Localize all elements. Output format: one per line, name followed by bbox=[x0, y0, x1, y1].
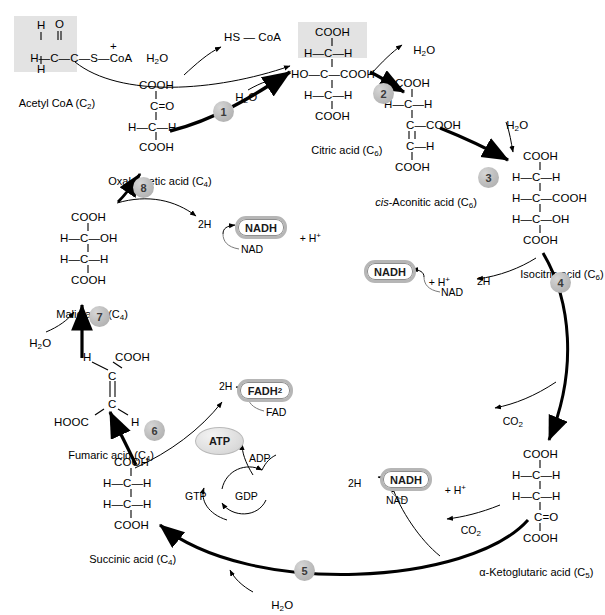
malic-r2: H—C—OH bbox=[60, 233, 117, 245]
ketoglutaric-r4: C=O bbox=[534, 512, 558, 524]
gdp-label: GDP bbox=[235, 490, 258, 502]
step-circle-5[interactable]: 5 bbox=[294, 560, 315, 581]
arrow-step-8-2h bbox=[117, 199, 196, 216]
fumaric-h-top: H bbox=[83, 352, 91, 364]
succinic-r2: H—C—H bbox=[103, 478, 151, 490]
acetyl-coa-name-text: Acetyl CoA (C bbox=[19, 97, 87, 109]
krebs-cycle-diagram: H O H—C—C—S—CoA H + H2O Acetyl CoA (C2) … bbox=[0, 0, 605, 615]
two-h-step-5: 2H bbox=[348, 477, 361, 489]
fumaric-cooh-top: COOH bbox=[115, 352, 150, 364]
fumaric-hooc: HOOC bbox=[54, 417, 89, 429]
fumaric-c2: C bbox=[108, 399, 116, 411]
nadh-badge-step-8: NADH bbox=[235, 216, 287, 239]
ketoglutaric-r5: COOH bbox=[523, 533, 558, 545]
step-circle-6[interactable]: 6 bbox=[144, 420, 165, 441]
h2o-label-step2: H2O bbox=[400, 33, 435, 69]
oxaloacetic-acid-name: Oxaloacetic acid (C4) bbox=[96, 163, 212, 201]
plus-h-step-5: + H+ bbox=[433, 471, 466, 508]
oxaloacetic-top-r2: C=O bbox=[150, 101, 174, 113]
fumaric-c1: C bbox=[108, 371, 116, 383]
fadh2-badge: FADH2 bbox=[237, 379, 293, 402]
citric-r5: COOH bbox=[315, 111, 350, 123]
malic-r4: COOH bbox=[71, 275, 106, 287]
nadh-badge-step-4: NADH bbox=[364, 260, 416, 283]
h2o-label-step5: H2O bbox=[258, 588, 293, 615]
ketoglutaric-acid-name: α-Ketoglutaric acid (C5) bbox=[467, 554, 593, 592]
arrow-h2o-step-5 bbox=[230, 570, 253, 592]
arrow-nadh-step-8 bbox=[223, 225, 235, 234]
acetyl-coa-o: O bbox=[55, 19, 64, 31]
isocitric-r5: COOH bbox=[523, 235, 558, 247]
plus-sign-acetyl: + bbox=[110, 41, 117, 53]
step-circle-8[interactable]: 8 bbox=[133, 177, 154, 198]
step-circle-7[interactable]: 7 bbox=[89, 306, 110, 327]
atp-badge: ATP bbox=[195, 427, 244, 455]
step-circle-3[interactable]: 3 bbox=[478, 167, 499, 188]
co2-label-step-5: CO2 bbox=[449, 512, 481, 550]
nad-label-step-4: NAD bbox=[441, 286, 463, 298]
arrow-gdp-to-gtp bbox=[222, 500, 266, 514]
two-h-step-8: 2H bbox=[198, 218, 211, 230]
acetyl-coa-name: Acetyl CoA (C2) bbox=[7, 85, 95, 123]
acetyl-coa-c1: C bbox=[50, 52, 58, 64]
arrow-gtp-from-cycle bbox=[203, 488, 227, 520]
step-circle-2[interactable]: 2 bbox=[373, 83, 394, 104]
two-h-step-6: 2H bbox=[219, 380, 232, 392]
ketoglutaric-r3: H—C—H bbox=[512, 491, 560, 503]
acetyl-coa-name-close: ) bbox=[92, 97, 96, 109]
oxaloacetic-top-r3: H—C—H bbox=[128, 122, 176, 134]
succinic-r3: H—C—H bbox=[103, 499, 151, 511]
ketoglutaric-r2: H—C—H bbox=[512, 470, 560, 482]
oxaloacetic-top-r1: COOH bbox=[139, 80, 174, 92]
h2o-label-step3: H2O bbox=[493, 108, 528, 144]
h2o-label-step7: H2O bbox=[16, 326, 51, 362]
step-circle-4[interactable]: 4 bbox=[550, 272, 571, 293]
isocitric-r2: H—C—H bbox=[512, 172, 560, 184]
adp-label: ADP bbox=[249, 452, 271, 464]
fumaric-acid-name: Fumaric acid (C4) bbox=[56, 437, 154, 475]
plus-h-step-8: + H+ bbox=[288, 219, 321, 256]
acetyl-coa-h-top: H bbox=[37, 20, 45, 32]
co2-label-step-4: CO2 bbox=[491, 403, 523, 441]
cis-aconitic-r3: C—COOH bbox=[406, 120, 461, 132]
citric-r1: COOH bbox=[315, 27, 350, 39]
acetyl-coa-h-left: H bbox=[30, 52, 38, 64]
acetyl-coa-coa: CoA bbox=[110, 52, 133, 64]
h2o-o: O bbox=[159, 52, 168, 64]
nad-label-step-8: NAD bbox=[241, 243, 263, 255]
step-circle-1[interactable]: 1 bbox=[213, 101, 234, 122]
oxaloacetic-top-r4: COOH bbox=[139, 142, 174, 154]
isocitric-r1: COOH bbox=[523, 151, 558, 163]
water-label-acetyl: H2O bbox=[133, 41, 168, 77]
acetyl-coa-h-bottom: H bbox=[37, 64, 45, 76]
malic-r3: H—C—H bbox=[60, 254, 108, 266]
fad-label: FAD bbox=[266, 406, 286, 418]
cis-aconitic-name: cis-Aconitic acid (C6) bbox=[363, 184, 477, 222]
nad-loop-step-8 bbox=[223, 234, 239, 249]
isocitric-r4: H—C—OH bbox=[512, 214, 569, 226]
arrow-hs-coa-release bbox=[184, 47, 221, 75]
citric-r4: H—C—H bbox=[304, 90, 352, 102]
hs-coa-label: HS — CoA bbox=[224, 32, 281, 44]
ketoglutaric-r1: COOH bbox=[523, 449, 558, 461]
isocitric-r3: H—C—COOH bbox=[512, 193, 587, 205]
citric-r3: HO—C—COOH bbox=[291, 69, 375, 81]
cis-aconitic-r1: COOH bbox=[395, 78, 430, 90]
cis-aconitic-r4: C—H bbox=[406, 141, 434, 153]
arrow-gtp-to-gdp bbox=[222, 467, 262, 489]
nad-label-step-5: NAD bbox=[386, 494, 408, 506]
citric-r2: H—C—H bbox=[304, 48, 352, 60]
nadh-badge-step-5: NADH bbox=[380, 468, 432, 491]
cis-aconitic-r2: H—C—H bbox=[384, 99, 432, 111]
cis-prefix: cis bbox=[375, 196, 388, 208]
succinic-r4: COOH bbox=[114, 520, 149, 532]
h2o-h: H bbox=[146, 52, 154, 64]
two-h-step-4: 2H bbox=[477, 275, 490, 287]
succinic-acid-name: Succinic acid (C4) bbox=[77, 541, 176, 579]
arrow-h2o-out-step-2 bbox=[372, 45, 402, 73]
malic-acid-name: Malic acid (C4) bbox=[44, 296, 128, 334]
acetyl-coa-c2: C bbox=[70, 52, 78, 64]
fumaric-h-bottom: H bbox=[131, 417, 139, 429]
gtp-label: GTP bbox=[185, 490, 207, 502]
acetyl-coa-s: S bbox=[90, 52, 98, 64]
